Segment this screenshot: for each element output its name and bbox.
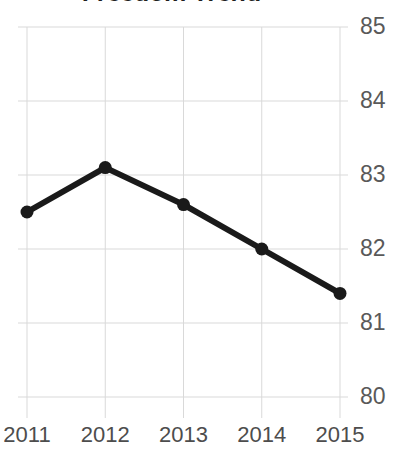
plot-area: [0, 0, 408, 420]
x-axis-tick-label: 2012: [81, 424, 130, 446]
y-axis-tick-label: 80: [360, 385, 386, 408]
data-point: [99, 161, 112, 174]
vertical-gridlines: [27, 27, 340, 418]
y-axis-tick-label: 82: [360, 237, 386, 260]
data-point: [334, 287, 347, 300]
y-axis-tick-label: 83: [360, 163, 386, 186]
data-point: [255, 243, 268, 256]
x-axis-tick-label: 2015: [316, 424, 365, 446]
x-axis-tick-label: 2014: [237, 424, 286, 446]
y-axis-tick-label: 84: [360, 89, 386, 112]
data-point: [177, 198, 190, 211]
x-axis-tick-label: 2013: [159, 424, 208, 446]
x-axis-tick-label: 2011: [3, 424, 50, 446]
y-axis-tick-label: 85: [360, 15, 386, 38]
chart-canvas: [0, 0, 408, 420]
line-chart: Freedom Trend 858483828180 2011201220132…: [0, 0, 408, 459]
y-axis-tick-label: 81: [360, 311, 386, 334]
data-point: [21, 206, 34, 219]
